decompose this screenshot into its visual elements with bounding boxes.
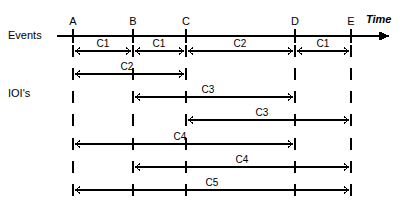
ioi-label-C1-B-C: C1: [153, 38, 166, 49]
ioi-label-C5-A-E: C5: [206, 177, 219, 188]
event-letter-E: E: [347, 15, 354, 27]
ioi-rows-label: IOI's: [8, 88, 30, 98]
diagram-canvas: ABCDEC1C1C2C1C2C3C3C4C4C5: [0, 0, 404, 212]
event-letter-C: C: [182, 15, 190, 27]
ioi-label-C2-A-C: C2: [121, 61, 134, 72]
ioi-label-C1-A-B: C1: [97, 38, 110, 49]
ioi-label-C4-B-E: C4: [236, 154, 249, 165]
event-letter-A: A: [69, 15, 77, 27]
events-row-label: Events: [8, 30, 42, 40]
ioi-timeline-diagram: ABCDEC1C1C2C1C2C3C3C4C4C5 Events IOI's T…: [0, 0, 404, 212]
ioi-label-C1-D-E: C1: [317, 38, 330, 49]
ioi-label-C4-A-D: C4: [174, 131, 187, 142]
time-axis-label: Time: [366, 14, 391, 24]
time-axis-arrowhead: [379, 31, 390, 40]
ioi-label-C3-C-E: C3: [256, 107, 269, 118]
event-letter-D: D: [291, 15, 299, 27]
ioi-label-C2-C-D: C2: [234, 38, 247, 49]
event-letter-B: B: [129, 15, 136, 27]
ioi-label-C3-B-D: C3: [202, 84, 215, 95]
